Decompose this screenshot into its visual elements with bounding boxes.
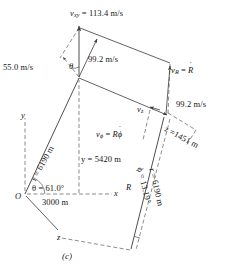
label-v-R: vR = ˙R	[171, 66, 193, 76]
figure-container: vxy = 113.4 m/s 55.0 m/s 99.2 m/s vR = ˙…	[0, 0, 228, 269]
label-theta-angle: θ	[69, 62, 73, 71]
z-axis-text: z	[57, 232, 60, 242]
theta-text: θ	[69, 61, 73, 71]
x-axis-text: x	[114, 188, 118, 198]
v-z-subscript: z	[141, 107, 144, 114]
label-v-z: vz	[137, 105, 143, 115]
label-theta-value: θ = 61.0°	[32, 184, 64, 193]
parallelogram-side-left	[60, 28, 79, 58]
phi-guide-line	[143, 110, 150, 140]
v-phi-eq: =	[103, 129, 112, 139]
R-text: R	[126, 182, 131, 192]
R-dot-group: ˙R	[188, 66, 193, 75]
origin-text: O	[15, 191, 21, 201]
velocity-parallelogram	[60, 26, 170, 115]
figure-caption: (c)	[62, 251, 72, 261]
v-xy-value: = 113.4 m/s	[80, 8, 123, 18]
label-v-phi: vϕ = R˙ϕ	[96, 130, 122, 140]
z-axis-line	[62, 238, 130, 250]
v-R-eq: =	[179, 65, 188, 75]
R-dot: ˙	[189, 61, 192, 70]
label-y-value: y = 5420 m	[81, 155, 121, 164]
y-axis-text: y	[21, 110, 25, 120]
label-v-xy: vxy = 113.4 m/s	[70, 9, 123, 19]
label-v-R-magnitude: 99.2 m/s	[176, 100, 206, 109]
phi-angle-arc	[134, 236, 140, 238]
v-z-arrow	[79, 78, 167, 115]
label-axis-z: z	[57, 233, 60, 242]
label-axis-y: y	[21, 111, 25, 120]
label-v-y-component: 55.0 m/s	[3, 63, 33, 72]
phi-dot: ˙	[119, 125, 122, 134]
phi-dot-group: ˙ϕ	[118, 130, 123, 139]
label-x-value: 3000 m	[42, 198, 68, 207]
label-R: R	[126, 183, 131, 192]
label-axis-x: x	[114, 189, 118, 198]
label-origin: O	[15, 192, 21, 201]
label-v-x-component: 99.2 m/s	[88, 55, 118, 64]
position-geometry	[25, 78, 196, 250]
